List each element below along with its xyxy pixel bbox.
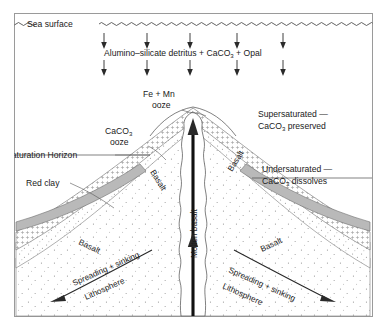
molten-basalt-label: Molten basalt xyxy=(190,209,199,258)
supersaturated-label: Supersaturated — CaCO3 preserved xyxy=(258,109,328,132)
settling-arrow xyxy=(144,60,150,76)
svg-text:CaCO3 preserved: CaCO3 preserved xyxy=(258,121,326,132)
settling-arrow xyxy=(101,60,107,76)
svg-text:Alumino–silicate detritus + Ca: Alumino–silicate detritus + CaCO3 + Opal xyxy=(104,48,262,59)
settling-arrow xyxy=(234,60,240,76)
settling-arrow xyxy=(280,33,286,49)
svg-text:Supersaturated —: Supersaturated — xyxy=(258,109,328,119)
settling-arrow xyxy=(280,60,286,76)
fe-mn-ooze-label-line1: Fe + Mn xyxy=(143,89,175,99)
sea-surface-wave-right xyxy=(99,23,379,26)
svg-text:ooze: ooze xyxy=(110,137,129,147)
fe-mn-ooze-label-line2: ooze xyxy=(152,100,171,110)
caco3-ooze-label: CaCO3 ooze xyxy=(105,126,133,147)
settling-arrows-row-1 xyxy=(101,33,286,49)
settling-arrow xyxy=(234,33,240,49)
ridge-cross-section-figure: Sea surface Alumino–silicate detritus + … xyxy=(0,0,388,336)
settling-arrow xyxy=(187,33,193,49)
settling-arrow xyxy=(187,60,193,76)
diagram-canvas: Sea surface Alumino–silicate detritus + … xyxy=(0,0,388,336)
red-clay-label: Red clay xyxy=(26,178,60,188)
svg-text:CaCO3: CaCO3 xyxy=(105,126,133,137)
settling-arrows-row-2 xyxy=(101,60,286,76)
svg-text:Undersaturated —: Undersaturated — xyxy=(262,164,333,174)
undersaturated-label: Undersaturated — CaCO3 dissolves xyxy=(262,164,333,187)
saturation-horizon-label: Saturation Horizon xyxy=(6,150,77,160)
sea-surface-label: Sea surface xyxy=(27,19,73,29)
svg-text:CaCO3 dissolves: CaCO3 dissolves xyxy=(262,176,327,187)
settling-arrow xyxy=(101,33,107,49)
settling-flux-label: Alumino–silicate detritus + CaCO3 + Opal xyxy=(104,48,262,59)
settling-arrow xyxy=(144,33,150,49)
